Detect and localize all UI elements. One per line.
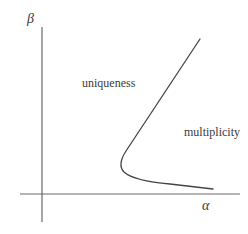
bifurcation-curve xyxy=(121,39,213,189)
uniqueness-region-label: uniqueness xyxy=(82,76,135,91)
multiplicity-region-label: multiplicity xyxy=(184,125,240,140)
x-axis-label: α xyxy=(202,198,209,214)
y-axis-label: β xyxy=(27,11,34,27)
phase-diagram xyxy=(0,0,248,234)
